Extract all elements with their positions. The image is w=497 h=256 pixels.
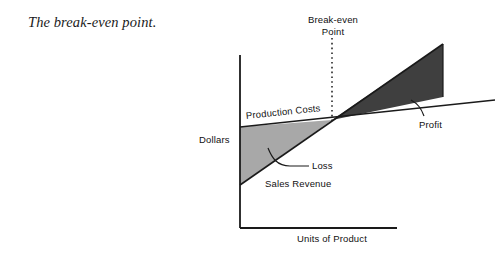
y-axis-label: Dollars — [199, 134, 230, 145]
x-axis-label: Units of Product — [297, 233, 367, 244]
break-even-label-line-1: Break-even — [308, 14, 358, 25]
break-even-label-line-2: Point — [322, 26, 344, 37]
sales-revenue-label: Sales Revenue — [265, 178, 331, 189]
break-even-point-label: Break-even Point — [297, 14, 369, 37]
profit-label: Profit — [419, 119, 442, 130]
loss-label: Loss — [312, 160, 333, 171]
break-even-figure: The break-even point. Dollars Units of P… — [0, 0, 497, 256]
